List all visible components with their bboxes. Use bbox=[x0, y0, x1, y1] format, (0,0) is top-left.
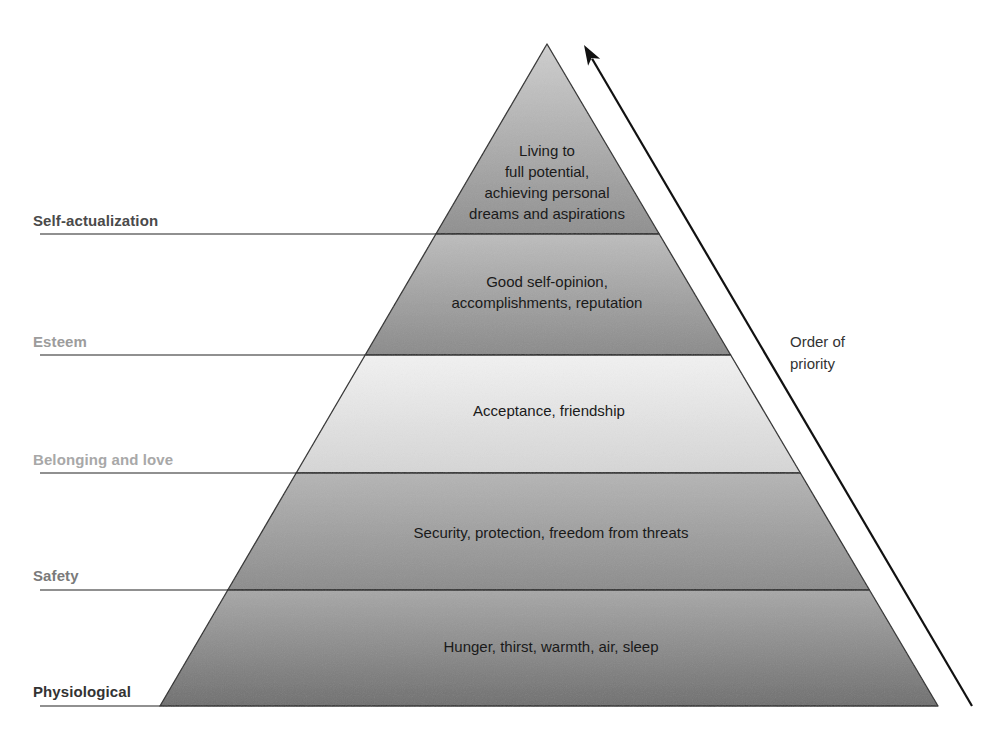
description-line: Acceptance, friendship bbox=[473, 400, 625, 421]
description-line: Living to bbox=[469, 140, 625, 161]
level-label-belonging-and-love: Belonging and love bbox=[33, 451, 173, 468]
description-line: dreams and aspirations bbox=[469, 203, 625, 224]
order-of-priority-label: Order of priority bbox=[790, 331, 845, 375]
priority-label-line: priority bbox=[790, 353, 845, 375]
description-line: accomplishments, reputation bbox=[452, 292, 643, 313]
level-label-self-actualization: Self-actualization bbox=[33, 212, 158, 229]
band-description-esteem: Good self-opinion, accomplishments, repu… bbox=[452, 271, 643, 313]
description-line: full potential, bbox=[469, 161, 625, 182]
level-label-physiological: Physiological bbox=[33, 683, 131, 700]
hierarchy-diagram: Self-actualization Esteem Belonging and … bbox=[0, 0, 986, 732]
band-description-belonging-and-love: Acceptance, friendship bbox=[473, 400, 625, 421]
description-line: Hunger, thirst, warmth, air, sleep bbox=[443, 636, 658, 657]
band-description-self-actualization: Living to full potential, achieving pers… bbox=[469, 140, 625, 224]
description-line: achieving personal bbox=[469, 182, 625, 203]
priority-label-line: Order of bbox=[790, 331, 845, 353]
description-line: Security, protection, freedom from threa… bbox=[414, 522, 689, 543]
band-description-safety: Security, protection, freedom from threa… bbox=[414, 522, 689, 543]
band-description-physiological: Hunger, thirst, warmth, air, sleep bbox=[443, 636, 658, 657]
description-line: Good self-opinion, bbox=[452, 271, 643, 292]
level-label-safety: Safety bbox=[33, 567, 79, 584]
level-label-esteem: Esteem bbox=[33, 333, 87, 350]
